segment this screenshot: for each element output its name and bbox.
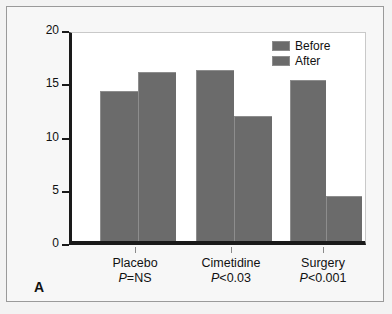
p-italic: P	[118, 271, 126, 285]
legend-swatch-after	[272, 56, 290, 66]
legend-label-after: After	[295, 54, 320, 68]
bar-surgery-after	[326, 196, 362, 241]
y-tick-label: 5	[52, 183, 59, 197]
y-tick-label: 0	[52, 236, 59, 250]
x-axis: Placebo P=NS Cimetidine P<0.03 Surgery P…	[69, 249, 366, 299]
y-tick-mark	[62, 244, 69, 246]
y-tick-mark	[62, 31, 69, 33]
p-rest: =NS	[127, 271, 152, 285]
plot-frame: Before After	[69, 32, 366, 245]
x-group-label: Surgery	[263, 256, 383, 270]
legend-swatch-before	[272, 41, 290, 51]
y-tick-mark	[62, 84, 69, 86]
x-group-pvalue: P<0.001	[263, 271, 383, 285]
bar-surgery-before	[290, 80, 326, 241]
bar-placebo-after	[138, 72, 176, 241]
x-tick-mark	[135, 247, 136, 253]
p-rest: <0.03	[219, 271, 251, 285]
y-tick-mark	[62, 138, 69, 140]
figure-panel: Medication score 20 15 10 5 0	[0, 0, 392, 314]
y-tick-label: 10	[46, 130, 59, 144]
bar-cimetidine-after	[234, 116, 272, 241]
legend-item-after: After	[272, 54, 330, 67]
figure-border: Medication score 20 15 10 5 0	[6, 6, 384, 302]
p-italic: P	[300, 271, 308, 285]
y-tick-label: 15	[46, 76, 59, 90]
x-tick-mark	[231, 247, 232, 253]
x-tick-mark	[323, 247, 324, 253]
y-axis: Medication score 20 15 10 5 0	[7, 32, 69, 245]
chart-legend: Before After	[272, 39, 330, 69]
p-rest: <0.001	[308, 271, 347, 285]
panel-label: A	[34, 279, 44, 295]
x-group-surgery: Surgery P<0.001	[263, 249, 383, 285]
legend-label-before: Before	[295, 39, 330, 53]
bar-placebo-before	[100, 91, 138, 241]
y-tick-mark	[62, 191, 69, 193]
y-tick-label: 20	[46, 23, 59, 37]
bar-cimetidine-before	[196, 70, 234, 241]
legend-item-before: Before	[272, 39, 330, 52]
